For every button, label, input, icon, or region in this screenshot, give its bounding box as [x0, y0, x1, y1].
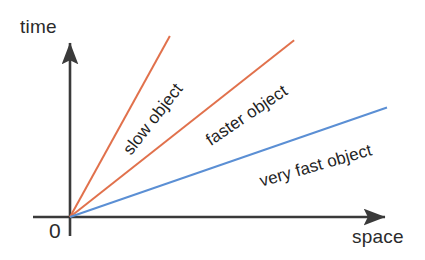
worldline-faster-object: [70, 40, 294, 217]
space-axis-label: space: [352, 226, 404, 248]
spacetime-diagram-figure: time space 0 slow object faster object v…: [0, 0, 425, 260]
origin-label: 0: [49, 219, 61, 243]
time-axis-label: time: [20, 16, 57, 38]
